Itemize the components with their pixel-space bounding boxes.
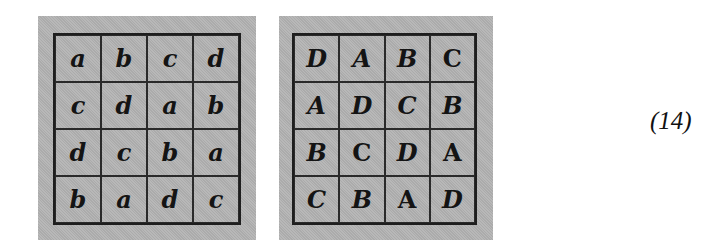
grid-cell: C bbox=[294, 176, 339, 223]
grid-cell: D bbox=[294, 35, 339, 82]
grid-cell: B bbox=[430, 82, 475, 129]
grid-cell: C bbox=[385, 82, 430, 129]
grid-cell: a bbox=[147, 82, 193, 129]
grid-cell: d bbox=[193, 35, 239, 82]
grid-cell: D bbox=[430, 176, 475, 223]
grid-cell: B bbox=[385, 35, 430, 82]
grid-cell: B bbox=[294, 129, 339, 176]
grid-cell: a bbox=[101, 176, 147, 223]
grid-cell: b bbox=[101, 35, 147, 82]
uppercase-latin-square-grid: D A B C A D C B B C D A C B A D bbox=[292, 33, 477, 225]
grid-cell: a bbox=[55, 35, 101, 82]
grid-cell: A bbox=[294, 82, 339, 129]
grid-cell: A bbox=[339, 35, 384, 82]
grid-cell: A bbox=[385, 176, 430, 223]
grid-cell: d bbox=[147, 176, 193, 223]
grid-cell: C bbox=[339, 129, 384, 176]
grid-cell: b bbox=[147, 129, 193, 176]
lowercase-latin-square-frame: a b c d c d a b d c b a b a d c bbox=[38, 16, 256, 240]
grid-cell: c bbox=[55, 82, 101, 129]
grid-cell: b bbox=[55, 176, 101, 223]
uppercase-latin-square-frame: D A B C A D C B B C D A C B A D bbox=[279, 16, 493, 240]
lowercase-latin-square-grid: a b c d c d a b d c b a b a d c bbox=[53, 33, 241, 225]
grid-cell: c bbox=[147, 35, 193, 82]
equation-number: (14) bbox=[650, 107, 692, 135]
grid-cell: c bbox=[101, 129, 147, 176]
grid-cell: D bbox=[339, 82, 384, 129]
grid-cell: d bbox=[101, 82, 147, 129]
grid-cell: c bbox=[193, 176, 239, 223]
grid-cell: A bbox=[430, 129, 475, 176]
grid-cell: d bbox=[55, 129, 101, 176]
grid-cell: D bbox=[385, 129, 430, 176]
grid-cell: b bbox=[193, 82, 239, 129]
grid-cell: B bbox=[339, 176, 384, 223]
grid-cell: a bbox=[193, 129, 239, 176]
grid-cell: C bbox=[430, 35, 475, 82]
